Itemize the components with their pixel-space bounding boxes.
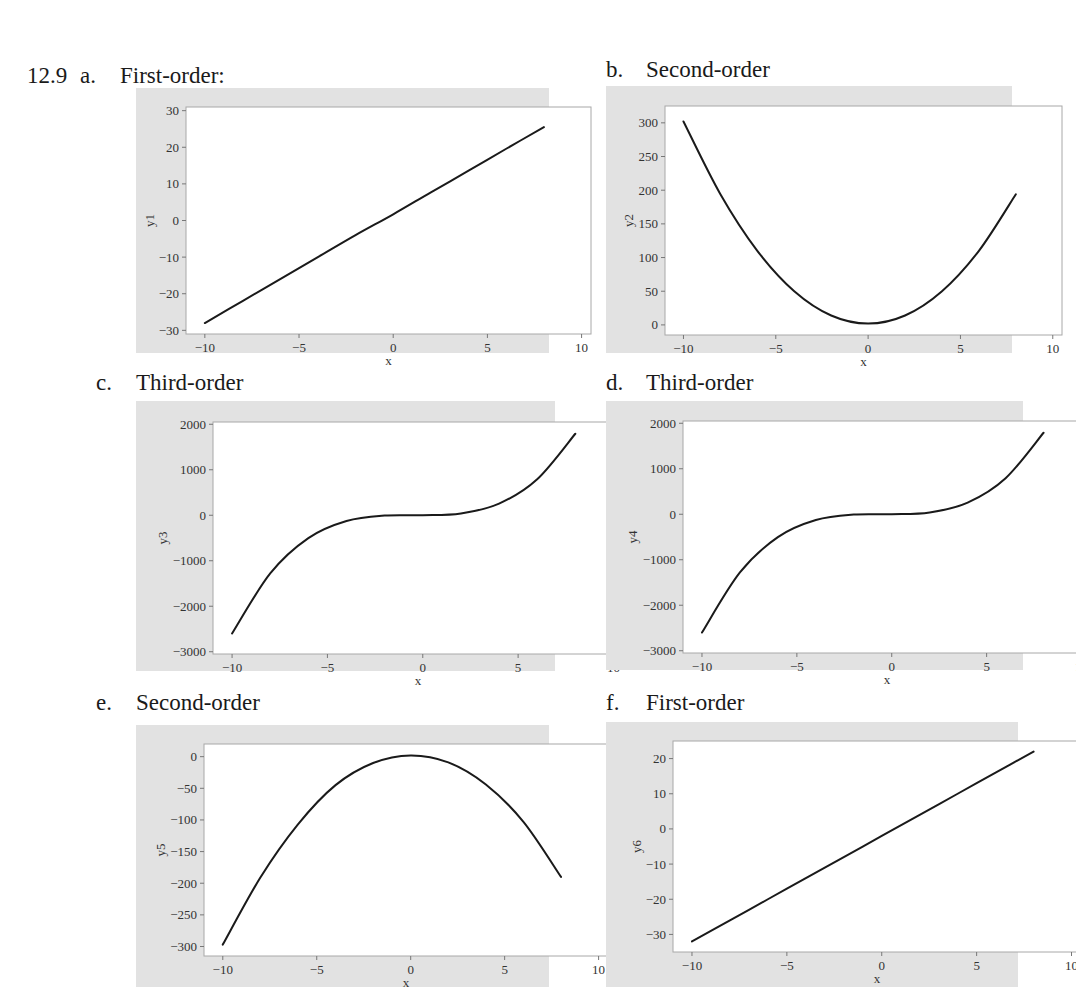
y-tick-label: −100 — [170, 812, 197, 827]
chart-svg: −3000−2000−1000010002000−10−50510xy3 — [136, 401, 555, 671]
y-tick-label: 0 — [200, 508, 207, 523]
y-tick-label: −30 — [646, 927, 666, 942]
y-tick-label: 50 — [645, 284, 658, 299]
y-axis-label: y5 — [153, 844, 168, 857]
y-tick-label: 0 — [670, 507, 677, 522]
panel-title: Third-order — [136, 370, 243, 395]
y-axis-label: y4 — [625, 530, 640, 544]
x-tick-label: −10 — [222, 660, 242, 675]
y-tick-label: 1000 — [180, 462, 206, 477]
x-axis-label: x — [860, 354, 867, 369]
panel-b-heading: b.Second-order — [606, 56, 770, 84]
y-tick-label: 150 — [639, 216, 659, 231]
x-tick-label: 5 — [501, 962, 508, 977]
y-tick-label: −2000 — [643, 598, 676, 613]
plot-area — [665, 106, 1062, 335]
x-tick-label: 10 — [1046, 341, 1059, 356]
panel-letter: c. — [96, 369, 136, 397]
x-axis-label: x — [884, 672, 891, 687]
y-tick-label: −250 — [170, 907, 197, 922]
y-tick-label: −150 — [170, 844, 197, 859]
plot-area — [204, 744, 608, 956]
y-tick-label: 0 — [191, 749, 198, 764]
x-tick-label: 5 — [515, 660, 522, 675]
y-tick-label: −50 — [177, 781, 197, 796]
y-axis-label: y3 — [155, 532, 170, 545]
x-tick-label: −5 — [769, 341, 783, 356]
chart-f: −30−20−1001020−10−50510xy6 — [606, 722, 1018, 987]
panel-letter: d. — [606, 369, 646, 397]
y-tick-label: −20 — [159, 286, 179, 301]
panel-letter: a. — [80, 62, 120, 90]
problem-number: 12.9 — [27, 62, 80, 90]
x-axis-label: x — [403, 975, 410, 987]
plot-area — [673, 741, 1076, 952]
y-tick-label: 0 — [173, 213, 180, 228]
y-tick-label: 30 — [166, 103, 179, 118]
y-tick-label: 1000 — [650, 461, 676, 476]
y-tick-label: 20 — [653, 751, 666, 766]
y-tick-label: −1000 — [173, 553, 206, 568]
panel-f-heading: f.First-order — [606, 689, 744, 717]
y-axis-label: y6 — [629, 840, 644, 854]
panel-title: Second-order — [646, 57, 770, 82]
panel-c-heading: c.Third-order — [96, 369, 243, 397]
y-tick-label: 250 — [639, 149, 659, 164]
y-tick-label: 10 — [166, 176, 179, 191]
y-tick-label: −2000 — [173, 599, 206, 614]
panel-letter: b. — [606, 56, 646, 84]
y-tick-label: −300 — [170, 939, 197, 954]
chart-svg: −3000−2000−1000010002000−10−50510xy4 — [606, 401, 1023, 670]
y-tick-label: 300 — [639, 115, 659, 130]
panel-a-heading: 12.9a.First-order: — [27, 62, 225, 90]
y-tick-label: 100 — [639, 250, 659, 265]
x-tick-label: −10 — [213, 962, 233, 977]
y-tick-label: −200 — [170, 876, 197, 891]
x-axis-label: x — [385, 353, 392, 368]
panel-d-heading: d.Third-order — [606, 369, 753, 397]
x-tick-label: 5 — [983, 659, 990, 674]
x-tick-label: 10 — [592, 962, 605, 977]
x-axis-label: x — [874, 971, 881, 986]
x-tick-label: −5 — [320, 660, 334, 675]
y-axis-label: y2 — [621, 214, 636, 227]
panel-title: Second-order — [136, 690, 260, 715]
plot-area — [683, 421, 1076, 653]
x-tick-label: 10 — [575, 340, 588, 355]
chart-a: −30−20−100102030−10−50510xy1 — [136, 88, 549, 353]
x-tick-label: −10 — [682, 958, 702, 973]
x-tick-label: 10 — [1065, 958, 1076, 973]
panel-e-heading: e.Second-order — [96, 689, 260, 717]
y-tick-label: 2000 — [650, 416, 676, 431]
x-tick-label: 5 — [973, 958, 980, 973]
x-tick-label: 5 — [957, 341, 964, 356]
panel-letter: f. — [606, 689, 646, 717]
x-tick-label: −10 — [692, 659, 712, 674]
chart-e: −300−250−200−150−100−500−10−50510xy5 — [136, 725, 549, 987]
panel-title: First-order — [646, 690, 744, 715]
y-tick-label: −3000 — [643, 643, 676, 658]
panel-title: First-order: — [120, 63, 225, 88]
x-tick-label: 5 — [484, 340, 491, 355]
x-tick-label: −5 — [780, 958, 794, 973]
panel-letter: e. — [96, 689, 136, 717]
y-tick-label: −10 — [646, 857, 666, 872]
x-tick-label: −5 — [292, 340, 306, 355]
y-tick-label: −30 — [159, 323, 179, 338]
chart-svg: −30−20−100102030−10−50510xy1 — [136, 88, 549, 353]
y-axis-label: y1 — [142, 214, 157, 227]
y-tick-label: −10 — [159, 250, 179, 265]
y-tick-label: 0 — [660, 821, 667, 836]
x-tick-label: −5 — [310, 962, 324, 977]
y-tick-label: 2000 — [180, 417, 206, 432]
y-tick-label: 0 — [652, 317, 659, 332]
plot-area — [186, 107, 591, 334]
y-tick-label: 10 — [653, 786, 666, 801]
chart-svg: −300−250−200−150−100−500−10−50510xy5 — [136, 725, 549, 987]
x-tick-label: −10 — [673, 341, 693, 356]
x-tick-label: −5 — [790, 659, 804, 674]
y-tick-label: −1000 — [643, 552, 676, 567]
chart-d: −3000−2000−1000010002000−10−50510xy4 — [606, 401, 1023, 670]
y-tick-label: −3000 — [173, 644, 206, 659]
y-tick-label: 20 — [166, 140, 179, 155]
